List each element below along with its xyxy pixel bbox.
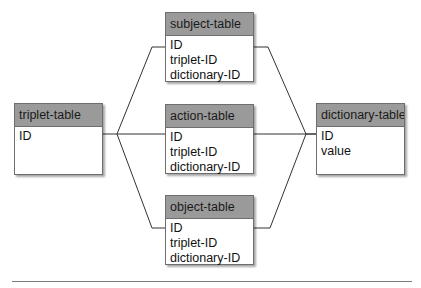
field: ID xyxy=(170,130,249,145)
field: ID xyxy=(19,129,98,144)
table-title: triplet-table xyxy=(15,104,102,127)
link-subject-dictionary xyxy=(254,47,306,134)
table-title: action-table xyxy=(166,105,253,128)
bottom-divider xyxy=(12,281,412,282)
field: dictionary-ID xyxy=(170,68,249,83)
table-title: dictionary-table xyxy=(317,104,404,127)
field: dictionary-ID xyxy=(170,160,249,175)
field: triplet-ID xyxy=(170,53,249,68)
subject-table: subject-table ID triplet-ID dictionary-I… xyxy=(165,12,254,82)
link-triplet-subject xyxy=(117,47,165,134)
link-object-dictionary xyxy=(254,134,306,228)
table-title: object-table xyxy=(166,196,253,219)
triplet-table: triplet-table ID xyxy=(14,103,103,175)
field: ID xyxy=(170,221,249,236)
link-triplet-object xyxy=(117,134,165,228)
object-table: object-table ID triplet-ID dictionary-ID xyxy=(165,195,254,265)
field: triplet-ID xyxy=(170,236,249,251)
action-table: action-table ID triplet-ID dictionary-ID xyxy=(165,104,254,174)
field: dictionary-ID xyxy=(170,251,249,266)
dictionary-table: dictionary-table ID value xyxy=(316,103,405,175)
field: ID xyxy=(170,38,249,53)
field: value xyxy=(321,144,400,159)
field: ID xyxy=(321,129,400,144)
field: triplet-ID xyxy=(170,145,249,160)
table-title: subject-table xyxy=(166,13,253,36)
